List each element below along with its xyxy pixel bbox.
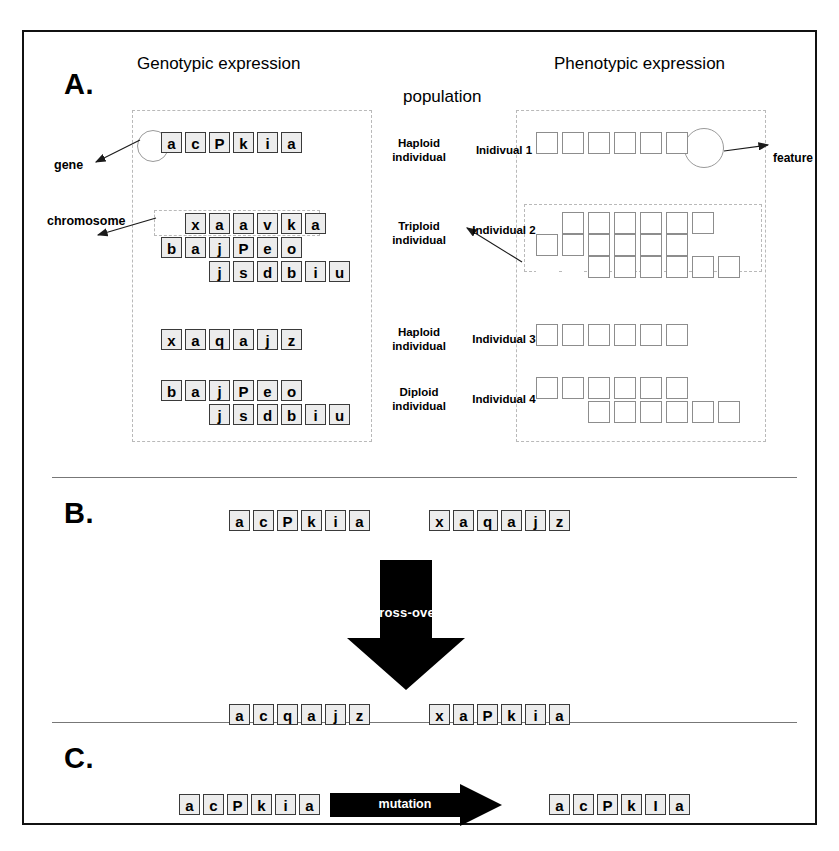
gene-tile: c bbox=[573, 794, 594, 815]
gene-tile: a bbox=[305, 213, 326, 234]
gene-tile: j bbox=[209, 380, 230, 401]
gene-tile: a bbox=[185, 329, 206, 350]
gene-tile: k bbox=[301, 510, 322, 531]
gene-tile: x bbox=[429, 704, 450, 725]
gene-tile: a bbox=[669, 794, 690, 815]
phenotype-feature-row bbox=[536, 234, 692, 257]
gene-tile: a bbox=[185, 380, 206, 401]
heading-genotypic-expression: Genotypic expression bbox=[137, 54, 300, 74]
phenotype-feature-row bbox=[536, 256, 744, 279]
feature-square bbox=[614, 132, 636, 154]
feature-square bbox=[692, 401, 714, 423]
gene-tile: j bbox=[209, 261, 230, 282]
panel-b-parent-chromosome: xaqajz bbox=[429, 510, 573, 533]
genotype-chromosome-row: bajPeo bbox=[161, 380, 305, 403]
gene-tile: j bbox=[209, 237, 230, 258]
gene-tile: b bbox=[281, 404, 302, 425]
crossover-arrow-icon bbox=[347, 560, 465, 690]
feature-square-spacer bbox=[562, 256, 584, 278]
panel-c-label: C. bbox=[64, 742, 94, 775]
gene-tile: a bbox=[299, 794, 320, 815]
gene-tile: z bbox=[549, 510, 570, 531]
gene-tile: a bbox=[549, 794, 570, 815]
ploidy-line-2: individual bbox=[392, 234, 446, 246]
gene-tile: v bbox=[257, 213, 278, 234]
feature-square bbox=[614, 212, 636, 234]
ploidy-line-2: individual bbox=[392, 340, 446, 352]
ploidy-label-2: Triploid individual bbox=[376, 219, 462, 247]
gene-tile-spacer bbox=[161, 261, 182, 282]
feature-square bbox=[666, 212, 688, 234]
ploidy-line-1: Haploid bbox=[398, 326, 440, 338]
ploidy-label-4: Diploid individual bbox=[376, 385, 462, 413]
gene-tile: x bbox=[161, 329, 182, 350]
divider-panel-b-c bbox=[52, 722, 797, 723]
feature-square bbox=[666, 256, 688, 278]
feature-square bbox=[718, 256, 740, 278]
gene-tile: a bbox=[349, 510, 370, 531]
feature-square bbox=[640, 256, 662, 278]
gene-tile: P bbox=[233, 237, 254, 258]
feature-square bbox=[666, 324, 688, 346]
gene-tile: k bbox=[501, 704, 522, 725]
gene-tile: o bbox=[281, 237, 302, 258]
gene-tile: s bbox=[233, 404, 254, 425]
gene-tile: a bbox=[179, 794, 200, 815]
gene-tile: k bbox=[281, 213, 302, 234]
feature-square bbox=[562, 234, 584, 256]
gene-tile: j bbox=[325, 704, 346, 725]
gene-tile: b bbox=[161, 237, 182, 258]
feature-square bbox=[666, 132, 688, 154]
feature-square bbox=[640, 401, 662, 423]
panel-b-label: B. bbox=[64, 497, 94, 530]
feature-square bbox=[718, 401, 740, 423]
gene-tile: s bbox=[233, 261, 254, 282]
gene-tile: i bbox=[275, 794, 296, 815]
feature-square bbox=[562, 324, 584, 346]
individual-label-3: Individual 3 bbox=[461, 332, 547, 346]
gene-tile: a bbox=[185, 237, 206, 258]
gene-tile: I bbox=[645, 794, 666, 815]
feature-square bbox=[640, 234, 662, 256]
gene-tile: a bbox=[501, 510, 522, 531]
gene-tile: x bbox=[429, 510, 450, 531]
gene-tile: a bbox=[233, 329, 254, 350]
feature-square bbox=[692, 256, 714, 278]
gene-tile: a bbox=[229, 704, 250, 725]
gene-tile: q bbox=[477, 510, 498, 531]
panel-b-recombinant-chromosome: xaPkia bbox=[429, 704, 573, 727]
feature-square bbox=[614, 401, 636, 423]
genotype-chromosome-row: bajPeo bbox=[161, 237, 305, 260]
feature-square bbox=[692, 212, 714, 234]
gene-tile: a bbox=[453, 704, 474, 725]
gene-tile: P bbox=[233, 380, 254, 401]
gene-tile: P bbox=[597, 794, 618, 815]
feature-square bbox=[666, 234, 688, 256]
genotype-chromosome-row: acPkia bbox=[161, 132, 305, 155]
feature-square-spacer bbox=[562, 401, 584, 423]
feature-square bbox=[614, 234, 636, 256]
gene-tile: z bbox=[349, 704, 370, 725]
ploidy-line-1: Triploid bbox=[398, 220, 440, 232]
mutation-label: mutation bbox=[330, 797, 480, 811]
gene-tile: a bbox=[233, 213, 254, 234]
ploidy-line-1: Diploid bbox=[400, 386, 439, 398]
gene-tile: i bbox=[305, 404, 326, 425]
gene-tile: k bbox=[621, 794, 642, 815]
genotype-chromosome-row: jsdbiu bbox=[161, 261, 353, 284]
gene-tile: a bbox=[549, 704, 570, 725]
feature-square bbox=[588, 212, 610, 234]
individual-label-4: Individual 4 bbox=[461, 392, 547, 406]
heading-population: population bbox=[403, 87, 481, 107]
label-chromosome: chromosome bbox=[47, 214, 126, 228]
gene-tile: q bbox=[277, 704, 298, 725]
feature-square bbox=[588, 377, 610, 399]
feature-square bbox=[640, 132, 662, 154]
ploidy-line-2: individual bbox=[392, 400, 446, 412]
gene-tile: k bbox=[251, 794, 272, 815]
gene-tile: c bbox=[253, 510, 274, 531]
phenotype-feature-row bbox=[536, 401, 744, 424]
gene-tile-spacer bbox=[185, 404, 206, 425]
panel-a-label: A. bbox=[64, 68, 94, 101]
gene-tile: u bbox=[329, 404, 350, 425]
